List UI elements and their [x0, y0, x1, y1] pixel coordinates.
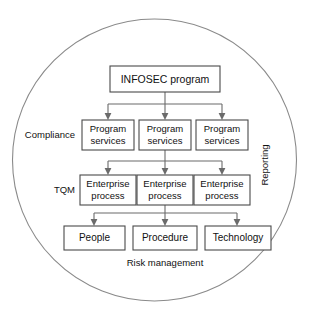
node-label-enterprise-process-2-line1: Enterprise: [143, 178, 186, 189]
node-people[interactable]: People: [64, 226, 125, 250]
node-label-program-services-1-line1: Program: [90, 123, 127, 134]
node-program-services-2[interactable]: Program services: [139, 120, 191, 150]
node-label-infosec-program: INFOSEC program: [121, 73, 210, 85]
node-label-people: People: [79, 232, 111, 243]
arrow-head: [219, 113, 226, 120]
connector-infosec-to-program-services: [105, 92, 226, 120]
arrow-head: [219, 168, 226, 175]
node-label-enterprise-process-2-line2: process: [148, 190, 182, 201]
arrow-head: [162, 113, 169, 120]
node-label-program-services-2-line1: Program: [147, 123, 184, 134]
connector-program-services-to-enterprise-process: [105, 150, 226, 175]
arrow-head: [91, 219, 98, 226]
node-program-services-3[interactable]: Program services: [196, 120, 248, 150]
node-label-enterprise-process-1-line1: Enterprise: [86, 178, 129, 189]
node-label-program-services-1-line2: services: [91, 135, 126, 146]
diagram-canvas: INFOSEC program Program services Program…: [0, 0, 321, 320]
arrow-head: [234, 219, 241, 226]
node-enterprise-process-3[interactable]: Enterprise process: [194, 175, 250, 205]
label-tqm: TQM: [54, 184, 75, 195]
label-reporting: Reporting: [259, 144, 270, 185]
connector-enterprise-process-to-components: [91, 205, 241, 226]
node-label-program-services-2-line2: services: [148, 135, 183, 146]
node-label-technology: Technology: [213, 232, 264, 243]
label-compliance: Compliance: [25, 129, 75, 140]
node-label-program-services-3-line2: services: [205, 135, 240, 146]
node-label-program-services-3-line1: Program: [204, 123, 241, 134]
node-enterprise-process-1[interactable]: Enterprise process: [80, 175, 136, 205]
node-program-services-1[interactable]: Program services: [82, 120, 134, 150]
node-procedure[interactable]: Procedure: [133, 226, 197, 250]
node-enterprise-process-2[interactable]: Enterprise process: [137, 175, 193, 205]
arrow-head: [162, 168, 169, 175]
node-technology[interactable]: Technology: [205, 226, 271, 250]
node-label-enterprise-process-1-line2: process: [91, 190, 125, 201]
arrow-head: [162, 219, 169, 226]
node-label-enterprise-process-3-line1: Enterprise: [200, 178, 243, 189]
node-label-procedure: Procedure: [142, 232, 189, 243]
arrow-head: [105, 113, 112, 120]
label-risk-management: Risk management: [127, 257, 204, 268]
node-infosec-program[interactable]: INFOSEC program: [110, 66, 220, 92]
diagram-svg: INFOSEC program Program services Program…: [0, 0, 321, 320]
arrow-head: [105, 168, 112, 175]
node-label-enterprise-process-3-line2: process: [205, 190, 239, 201]
